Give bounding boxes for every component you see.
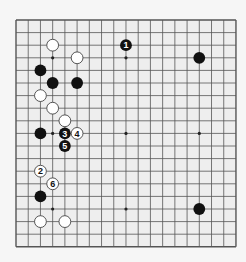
star-point	[124, 132, 127, 135]
star-point	[198, 132, 201, 135]
white-stone[interactable]: 6	[47, 178, 59, 190]
move-number: 2	[38, 166, 43, 176]
black-stone[interactable]	[35, 65, 47, 77]
black-stone[interactable]: 3	[59, 127, 71, 139]
move-number: 5	[62, 141, 67, 151]
black-stone-disc	[35, 191, 47, 203]
black-stone[interactable]: 5	[59, 140, 71, 152]
white-stone[interactable]	[35, 90, 47, 102]
white-stone-disc	[47, 39, 59, 51]
black-stone[interactable]	[193, 203, 205, 215]
move-number: 3	[62, 129, 67, 139]
black-stone[interactable]: 1	[120, 39, 132, 51]
go-board[interactable]: 134526	[0, 0, 246, 262]
white-stone-disc	[59, 216, 71, 228]
black-stone-disc	[193, 52, 205, 64]
black-stone[interactable]	[47, 77, 59, 89]
star-point	[51, 207, 54, 210]
white-stone-disc	[59, 115, 71, 127]
white-stone[interactable]	[59, 216, 71, 228]
black-stone-disc	[71, 77, 83, 89]
black-stone-disc	[35, 127, 47, 139]
move-number: 4	[75, 129, 80, 139]
white-stone[interactable]: 4	[71, 127, 83, 139]
white-stone[interactable]	[47, 102, 59, 114]
black-stone-disc	[193, 203, 205, 215]
black-stone[interactable]	[35, 127, 47, 139]
black-stone[interactable]	[35, 191, 47, 203]
black-stone[interactable]	[193, 52, 205, 64]
white-stone[interactable]	[35, 216, 47, 228]
black-stone-disc	[35, 65, 47, 77]
move-number: 1	[123, 40, 128, 50]
star-point	[51, 56, 54, 59]
white-stone[interactable]	[71, 52, 83, 64]
white-stone-disc	[35, 216, 47, 228]
white-stone-disc	[71, 52, 83, 64]
black-stone-disc	[47, 77, 59, 89]
white-stone[interactable]	[47, 39, 59, 51]
white-stone-disc	[47, 102, 59, 114]
star-point	[124, 207, 127, 210]
white-stone[interactable]	[59, 115, 71, 127]
star-point	[51, 132, 54, 135]
white-stone-disc	[35, 90, 47, 102]
white-stone[interactable]: 2	[35, 165, 47, 177]
star-point	[124, 56, 127, 59]
black-stone[interactable]	[71, 77, 83, 89]
move-number: 6	[50, 179, 55, 189]
